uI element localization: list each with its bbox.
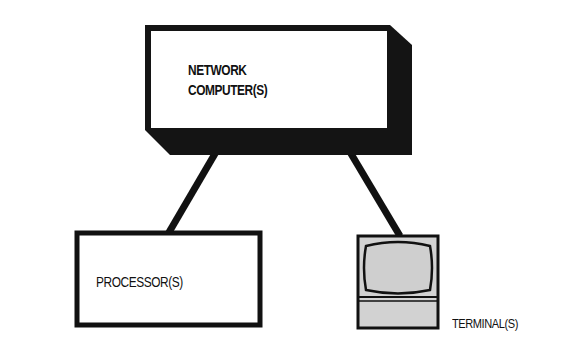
box-face (151, 31, 387, 128)
terminal-icon (358, 236, 438, 328)
network-diagram (0, 0, 566, 358)
network-computer-label-line1: NETWORK (188, 60, 267, 80)
network-computer-node (145, 25, 412, 155)
terminal-label: TERMINAL(S) (452, 316, 518, 331)
network-computer-label-line2: COMPUTER(S) (188, 80, 267, 100)
processor-label: PROCESSOR(S) (96, 274, 183, 290)
terminal-screen (364, 242, 432, 294)
network-computer-label: NETWORK COMPUTER(S) (188, 60, 267, 100)
edge-network-to-processor (168, 152, 216, 234)
edge-network-to-terminal (350, 152, 400, 236)
